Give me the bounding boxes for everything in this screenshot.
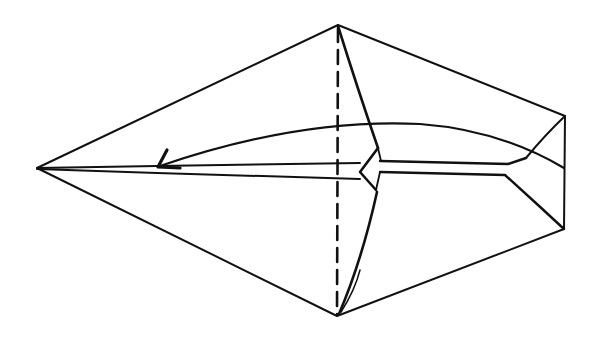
center-flap bbox=[37, 148, 564, 229]
flap-edges bbox=[338, 26, 378, 314]
outline bbox=[37, 25, 565, 316]
origami-diagram bbox=[0, 0, 594, 341]
valley-fold-line bbox=[337, 28, 338, 314]
fold-arrow bbox=[158, 123, 564, 168]
diagram-svg bbox=[0, 0, 594, 341]
